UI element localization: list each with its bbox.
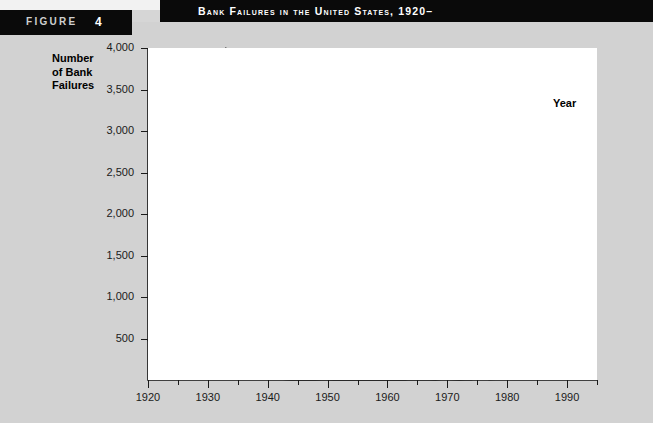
chart-title: Bank Failures in the United States, 1920… <box>198 5 433 17</box>
y-tick-label: 3,500 <box>86 83 134 95</box>
x-tick-mark-major <box>208 380 209 388</box>
y-tick-label: 2,500 <box>86 166 134 178</box>
x-tick-mark-major <box>567 380 568 388</box>
x-axis-title: Year <box>553 97 576 109</box>
y-tick-label: 1,000 <box>86 290 134 302</box>
y-tick-mark <box>141 214 148 215</box>
x-tick-label: 1980 <box>487 391 527 403</box>
x-tick-label: 1940 <box>248 391 288 403</box>
title-bar: Bank Failures in the United States, 1920… <box>160 0 653 22</box>
x-tick-mark-minor <box>597 380 598 385</box>
plot-background <box>148 48 597 380</box>
x-tick-mark-minor <box>298 380 299 385</box>
y-tick-mark <box>141 256 148 257</box>
y-tick-mark <box>141 48 148 49</box>
y-tick-label: 500 <box>86 332 134 344</box>
y-tick-label: 1,500 <box>86 249 134 261</box>
figure-page: FIGURE 4 Bank Failures in the United Sta… <box>0 0 653 423</box>
y-tick-label: 2,000 <box>86 207 134 219</box>
chart-area: Number of Bank Failures 5001,0001,5002,0… <box>0 35 653 423</box>
x-tick-label: 1950 <box>308 391 348 403</box>
y-tick-mark <box>141 339 148 340</box>
x-tick-mark-major <box>507 380 508 388</box>
y-tick-mark <box>141 90 148 91</box>
y-tick-label: 3,000 <box>86 124 134 136</box>
x-tick-mark-minor <box>537 380 538 385</box>
x-tick-mark-major <box>148 380 149 388</box>
figure-number: 4 <box>95 15 102 29</box>
x-tick-mark-major <box>268 380 269 388</box>
top-white-strip <box>0 0 160 10</box>
x-tick-mark-major <box>447 380 448 388</box>
x-tick-mark-minor <box>178 380 179 385</box>
y-axis-title-line-2: of Bank <box>52 66 118 80</box>
x-tick-mark-major <box>328 380 329 388</box>
x-tick-mark-minor <box>358 380 359 385</box>
x-tick-label: 1990 <box>547 391 587 403</box>
x-tick-mark-minor <box>417 380 418 385</box>
y-tick-mark <box>141 297 148 298</box>
y-tick-label: 4,000 <box>86 41 134 53</box>
x-tick-label: 1960 <box>367 391 407 403</box>
figure-label: FIGURE <box>26 16 78 27</box>
y-tick-mark <box>141 131 148 132</box>
x-tick-label: 1930 <box>188 391 228 403</box>
x-tick-label: 1970 <box>427 391 467 403</box>
y-axis-title-line-1: Number <box>52 52 118 66</box>
x-tick-mark-major <box>387 380 388 388</box>
x-tick-mark-minor <box>238 380 239 385</box>
x-tick-mark-minor <box>477 380 478 385</box>
x-tick-label: 1920 <box>128 391 168 403</box>
y-tick-mark <box>141 173 148 174</box>
